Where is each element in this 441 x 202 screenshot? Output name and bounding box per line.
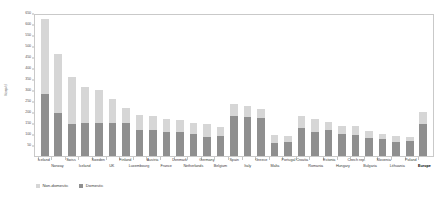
bar-column[interactable]	[66, 15, 78, 156]
bar-stack[interactable]	[203, 124, 211, 156]
bar-column[interactable]	[93, 15, 105, 156]
bar-segment-domestic[interactable]	[163, 132, 171, 156]
bar-stack[interactable]	[41, 19, 49, 156]
bar-column[interactable]	[160, 15, 172, 156]
bar-column[interactable]	[390, 15, 402, 156]
bar-segment-domestic[interactable]	[68, 124, 76, 156]
bar-segment-domestic[interactable]	[257, 118, 265, 156]
bar-segment-non-domestic[interactable]	[203, 124, 211, 137]
bar-segment-domestic[interactable]	[136, 130, 144, 156]
bar-segment-domestic[interactable]	[325, 130, 333, 156]
bar-stack[interactable]	[122, 108, 130, 156]
bar-segment-non-domestic[interactable]	[352, 126, 360, 135]
bar-column[interactable]	[174, 15, 186, 156]
bar-column[interactable]	[404, 15, 416, 156]
bar-segment-domestic[interactable]	[122, 123, 130, 156]
bar-segment-domestic[interactable]	[406, 141, 414, 156]
bar-segment-non-domestic[interactable]	[54, 54, 62, 113]
bar-stack[interactable]	[379, 134, 387, 156]
bar-column[interactable]	[147, 15, 159, 156]
bar-column[interactable]	[241, 15, 253, 156]
bar-segment-domestic[interactable]	[41, 94, 49, 156]
bar-stack[interactable]	[257, 109, 265, 156]
bar-segment-domestic[interactable]	[379, 139, 387, 156]
bar-segment-domestic[interactable]	[217, 136, 225, 156]
bar-column[interactable]	[295, 15, 307, 156]
bar-stack[interactable]	[95, 90, 103, 156]
bar-column[interactable]	[187, 15, 199, 156]
bar-column[interactable]	[106, 15, 118, 156]
bar-segment-non-domestic[interactable]	[81, 87, 89, 123]
bar-segment-non-domestic[interactable]	[298, 116, 306, 128]
bar-column[interactable]	[201, 15, 213, 156]
bar-stack[interactable]	[284, 136, 292, 156]
bar-stack[interactable]	[392, 136, 400, 156]
bar-segment-non-domestic[interactable]	[325, 122, 333, 130]
bar-segment-non-domestic[interactable]	[217, 127, 225, 136]
bar-column[interactable]	[363, 15, 375, 156]
bar-segment-domestic[interactable]	[190, 134, 198, 156]
bar-column[interactable]	[309, 15, 321, 156]
bar-stack[interactable]	[352, 126, 360, 156]
bar-column[interactable]	[417, 15, 429, 156]
bar-segment-non-domestic[interactable]	[163, 119, 171, 132]
bar-segment-non-domestic[interactable]	[68, 77, 76, 124]
bar-segment-non-domestic[interactable]	[230, 104, 238, 116]
bar-stack[interactable]	[230, 104, 238, 156]
bar-stack[interactable]	[54, 54, 62, 156]
bar-stack[interactable]	[298, 116, 306, 156]
bar-segment-domestic[interactable]	[298, 128, 306, 156]
bar-segment-domestic[interactable]	[54, 113, 62, 156]
bar-stack[interactable]	[217, 127, 225, 156]
bar-segment-non-domestic[interactable]	[41, 19, 49, 95]
bar-stack[interactable]	[81, 87, 89, 156]
bar-segment-non-domestic[interactable]	[271, 135, 279, 143]
bar-segment-non-domestic[interactable]	[244, 106, 252, 117]
bar-stack[interactable]	[311, 119, 319, 156]
bar-segment-domestic[interactable]	[365, 138, 373, 156]
bar-segment-domestic[interactable]	[176, 132, 184, 156]
bar-column[interactable]	[39, 15, 51, 156]
bar-column[interactable]	[322, 15, 334, 156]
bar-segment-non-domestic[interactable]	[95, 90, 103, 123]
bar-column[interactable]	[120, 15, 132, 156]
bar-segment-non-domestic[interactable]	[176, 120, 184, 133]
bar-stack[interactable]	[190, 123, 198, 156]
bar-column[interactable]	[268, 15, 280, 156]
bar-segment-non-domestic[interactable]	[338, 126, 346, 134]
bar-segment-non-domestic[interactable]	[419, 112, 427, 124]
bar-stack[interactable]	[406, 137, 414, 156]
bar-stack[interactable]	[271, 135, 279, 156]
bar-segment-non-domestic[interactable]	[122, 108, 130, 124]
bar-segment-domestic[interactable]	[203, 137, 211, 156]
bar-stack[interactable]	[176, 120, 184, 156]
bar-column[interactable]	[52, 15, 64, 156]
bar-segment-domestic[interactable]	[352, 135, 360, 156]
bar-column[interactable]	[376, 15, 388, 156]
bar-segment-domestic[interactable]	[149, 130, 157, 156]
bar-column[interactable]	[282, 15, 294, 156]
legend-domestic[interactable]: Domestic	[79, 184, 103, 188]
bar-segment-domestic[interactable]	[109, 123, 117, 156]
bar-stack[interactable]	[365, 131, 373, 156]
bar-column[interactable]	[79, 15, 91, 156]
bar-segment-domestic[interactable]	[419, 124, 427, 156]
bar-segment-domestic[interactable]	[338, 134, 346, 156]
bar-segment-non-domestic[interactable]	[109, 99, 117, 123]
bar-stack[interactable]	[68, 77, 76, 156]
bar-segment-non-domestic[interactable]	[136, 115, 144, 130]
bar-stack[interactable]	[163, 119, 171, 156]
bar-stack[interactable]	[338, 126, 346, 156]
bar-segment-domestic[interactable]	[311, 132, 319, 156]
bar-column[interactable]	[336, 15, 348, 156]
bar-column[interactable]	[349, 15, 361, 156]
bar-segment-non-domestic[interactable]	[190, 123, 198, 134]
bar-segment-non-domestic[interactable]	[149, 116, 157, 130]
bar-stack[interactable]	[325, 122, 333, 156]
bar-segment-domestic[interactable]	[284, 142, 292, 156]
bar-column[interactable]	[214, 15, 226, 156]
bar-stack[interactable]	[149, 116, 157, 156]
bar-segment-domestic[interactable]	[271, 143, 279, 156]
bar-segment-non-domestic[interactable]	[284, 136, 292, 143]
bar-column[interactable]	[228, 15, 240, 156]
